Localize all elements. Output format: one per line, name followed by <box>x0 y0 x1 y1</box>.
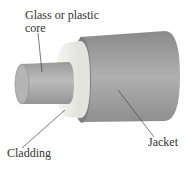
core-label: Glass or plastic core <box>25 9 99 35</box>
core-cylinder <box>15 62 74 104</box>
core-label-line2: core <box>25 22 99 35</box>
cladding-leader-line <box>22 110 65 148</box>
cladding-label: Cladding <box>7 147 51 160</box>
jacket-label: Jacket <box>148 136 178 149</box>
